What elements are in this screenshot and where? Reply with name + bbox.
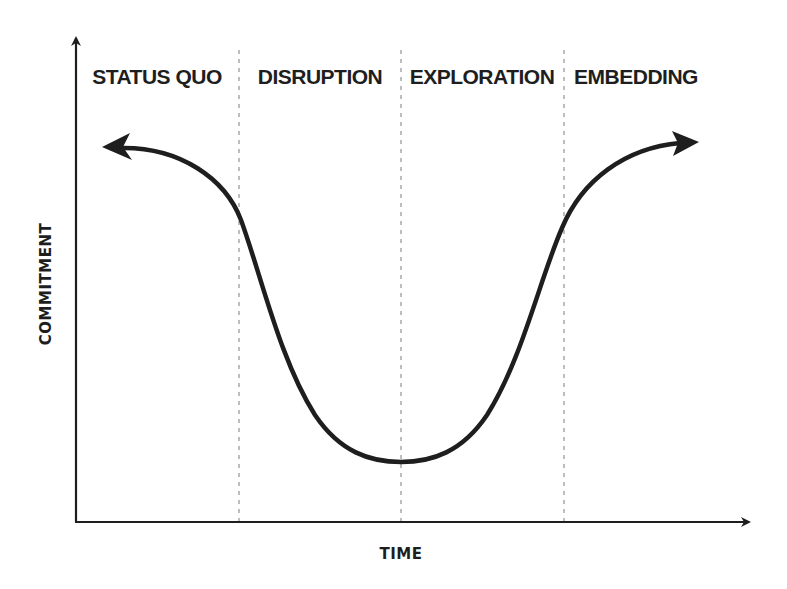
phase-label-status-quo: STATUS QUO: [92, 65, 222, 88]
phase-label-disruption: DISRUPTION: [258, 65, 383, 88]
phase-dividers: [239, 50, 564, 521]
y-axis-label: COMMITMENT: [37, 223, 55, 346]
change-curve-diagram: STATUS QUO DISRUPTION EXPLORATION EMBEDD…: [0, 0, 787, 589]
phase-label-exploration: EXPLORATION: [410, 65, 555, 88]
commitment-curve: [124, 143, 680, 462]
x-axis-label: TIME: [380, 545, 423, 563]
phase-label-embedding: EMBEDDING: [574, 65, 698, 88]
